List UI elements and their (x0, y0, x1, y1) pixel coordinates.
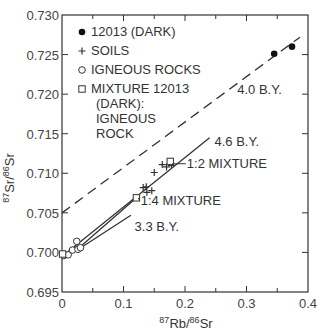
data-point-open-circle (73, 238, 80, 245)
y-tick-label: 0.700 (26, 245, 59, 260)
y-tick-label: 0.710 (26, 166, 59, 181)
x-tick-label: 0.1 (114, 296, 132, 311)
legend-label: IGNEOUS ROCKS (91, 62, 201, 77)
y-tick-label: 0.715 (26, 127, 59, 142)
legend-marker-plus (79, 48, 86, 55)
x-tick-label: 0.3 (237, 296, 255, 311)
y-tick-label: 0.695 (26, 285, 59, 300)
data-point-filled-circle (289, 43, 296, 50)
legend-marker-filled-circle (79, 29, 86, 36)
data-point-plus (151, 169, 158, 176)
data-point-plus (140, 184, 147, 191)
annotation-label: 3.3 B.Y. (135, 219, 180, 234)
data-point-open-square (59, 251, 65, 257)
data-point-plus (143, 183, 150, 190)
x-axis-label: 87Rb/86Sr (159, 315, 213, 331)
y-tick-label: 0.705 (26, 206, 59, 221)
y-tick-label: 0.720 (26, 87, 59, 102)
legend-label-continued: IGNEOUS (96, 111, 156, 126)
isochron-line-mixing (77, 198, 136, 249)
legend-label-continued: (DARK): (96, 96, 144, 111)
x-tick-label: 0 (58, 296, 65, 311)
annotation-label: 4.6 B.Y. (215, 134, 260, 149)
legend-label: MIXTURE 12013 (91, 81, 189, 96)
legend-marker-open-square (79, 86, 85, 92)
annotation-label: 4.0 B.Y. (237, 82, 282, 97)
data-point-open-circle (77, 244, 84, 251)
legend-label-continued: ROCK (96, 126, 134, 141)
isochron-chart: 00.10.20.30.40.6950.7000.7050.7100.7150.… (0, 0, 324, 333)
x-tick-label: 0.4 (299, 296, 317, 311)
y-tick-label: 0.725 (26, 48, 59, 63)
legend-marker-open-circle (79, 67, 86, 74)
annotation-label: 1:4 MIXTURE (141, 193, 222, 208)
y-axis-label: 87Sr/86Sr (1, 153, 17, 203)
data-point-filled-circle (271, 50, 278, 57)
isochron-line-3-3-b-y- (77, 215, 131, 250)
legend-label: SOILS (91, 43, 130, 58)
y-tick-label: 0.730 (26, 8, 59, 23)
annotation-label: 1:2 MIXTURE (187, 156, 268, 171)
x-tick-label: 0.2 (176, 296, 194, 311)
legend-label: 12013 (DARK) (91, 24, 176, 39)
